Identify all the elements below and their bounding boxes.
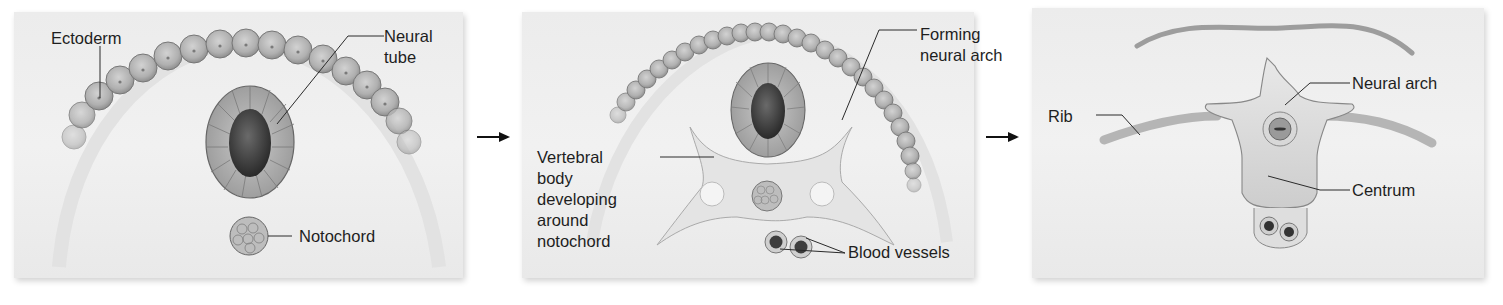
label-vertebral-line3: developing [537,190,617,209]
label-vertebral-line4: around [537,211,588,230]
label-notochord: Notochord [299,227,375,246]
label-vertebral-line1: Vertebral [537,148,603,167]
label-centrum: Centrum [1352,181,1415,200]
vertebra [1205,58,1354,248]
label-rib: Rib [1048,107,1073,126]
arrow-right-icon [477,131,511,143]
arrow-right-icon [986,131,1020,143]
label-neural-tube-line1: Neural [384,27,433,46]
label-forming-line1: Forming [920,25,981,44]
stage-3-panel: Rib Neural arch Centrum [1032,8,1484,278]
stage-2-panel: Forming neural arch Vertebral body devel… [522,12,974,278]
neural-tube [731,63,805,157]
stage-3-illustration [1032,8,1484,278]
stage-1-panel: Ectoderm Neural tube Notochord [14,12,463,278]
label-vertebral-line2: body [537,169,573,188]
label-blood-vessels: Blood vessels [848,243,950,262]
label-forming-line2: neural arch [920,46,1003,65]
label-neural-tube-line2: tube [384,48,416,67]
label-ectoderm: Ectoderm [51,29,122,48]
blood-vessels [765,231,812,258]
rib-left [1104,116,1217,140]
neural-tube [206,86,294,198]
notochord [752,181,782,211]
notochord [230,217,268,255]
skin-contour [1137,26,1412,53]
rib-right [1322,116,1432,143]
label-vertebral-line5: notochord [537,232,610,251]
label-neural-arch: Neural arch [1352,74,1437,93]
